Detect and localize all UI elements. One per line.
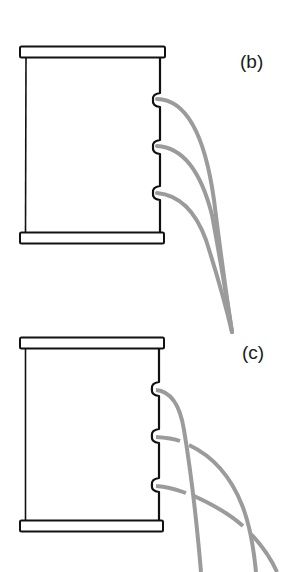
panel-c-label: (c) [242,343,264,362]
panel-c-water-streams [156,390,277,572]
panel-b-left-wall [26,58,27,232]
panel-b-label: (b) [240,52,263,71]
panel-c-stream-top [156,390,201,572]
panel-c-bottom-plate [20,521,163,532]
panel-c-top-plate [20,338,164,349]
water-container-diagram [0,0,284,572]
panel-c-stream-bottom-seg1 [156,486,186,493]
panel-c-container [20,338,277,572]
panel-b-water-streams [157,99,232,332]
panel-b-container [20,47,232,333]
panel-b-top-plate [20,47,165,58]
panel-c-stream-middle-seg1 [156,437,180,441]
panel-c-stream-bottom-seg2 [194,496,243,526]
panel-c-right-wall [152,349,159,520]
panel-b-bottom-plate [20,233,164,244]
